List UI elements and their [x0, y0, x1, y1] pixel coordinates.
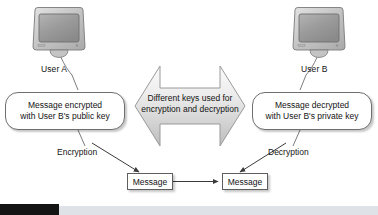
right-callout-line1: Message decrypted	[275, 100, 349, 111]
footer-bar-light	[59, 206, 378, 215]
encryption-label: Encryption	[57, 147, 97, 157]
footer-bar-dark	[0, 204, 59, 215]
message-box-left: Message	[127, 173, 173, 190]
diagram-canvas: User A User B Message encrypted with Use…	[0, 0, 378, 215]
decryption-label: Decryption	[268, 147, 309, 157]
user-a-label: User A	[41, 64, 67, 74]
user-b-monitor	[288, 6, 350, 62]
left-callout-box: Message encrypted with User B's public k…	[5, 92, 125, 130]
message-box-right: Message	[222, 173, 268, 190]
user-a-monitor	[28, 6, 90, 62]
right-callout-box: Message decrypted with User B's private …	[252, 92, 372, 130]
left-callout-line1: Message encrypted	[28, 100, 102, 111]
user-b-label: User B	[301, 64, 328, 74]
left-callout-line2: with User B's public key	[20, 111, 110, 122]
double-headed-arrow-icon	[134, 64, 246, 148]
right-callout-line2: with User B's private key	[266, 111, 359, 122]
